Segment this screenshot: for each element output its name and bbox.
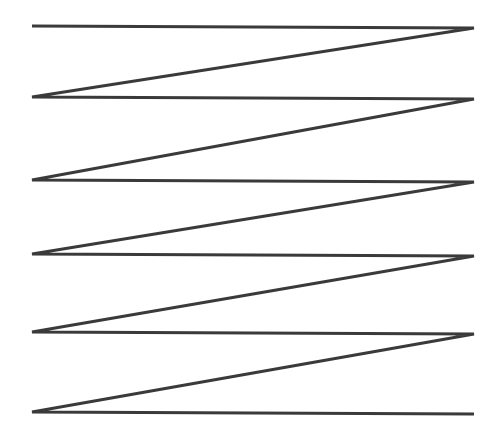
zigzag-line-drawing: Continuous zigzag serpentine line figure… (0, 0, 499, 445)
zigzag-figure-canvas: Continuous zigzag serpentine line figure… (0, 0, 499, 445)
figure-background (0, 0, 499, 445)
